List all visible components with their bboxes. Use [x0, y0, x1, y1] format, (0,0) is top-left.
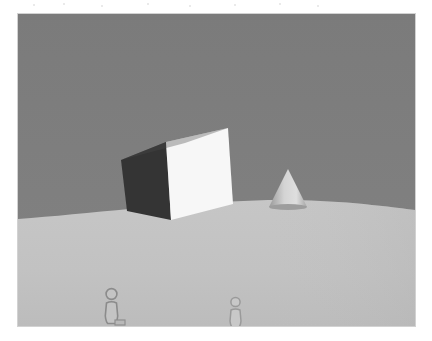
cone-base	[269, 204, 307, 210]
figure-left-base	[115, 320, 125, 325]
cube-face-shadow	[121, 142, 171, 220]
figure-right	[226, 296, 246, 326]
screenshot-root: 3D rendered outdoor scene A large tilted…	[0, 0, 432, 341]
cube	[119, 112, 241, 222]
cone	[266, 166, 310, 212]
scan-speckle-artifact	[30, 2, 330, 8]
cone-body	[269, 169, 307, 207]
figure-right-head	[231, 297, 240, 306]
rendered-scene-image: 3D rendered outdoor scene A large tilted…	[18, 14, 415, 326]
figure-left	[101, 287, 127, 326]
figure-right-body	[230, 309, 241, 326]
ground-right-shade	[268, 200, 415, 326]
figure-left-head	[106, 289, 117, 300]
